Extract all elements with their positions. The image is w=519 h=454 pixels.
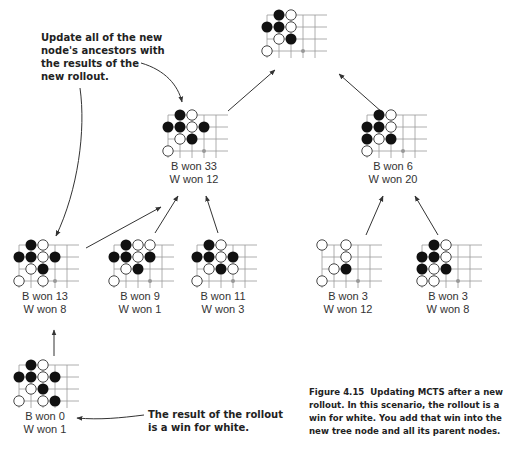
black-stone-icon	[49, 252, 60, 263]
white-stone-icon	[132, 252, 142, 262]
white-stone-icon	[191, 276, 201, 286]
move-marker-icon	[231, 279, 235, 283]
black-stone-icon	[49, 372, 60, 383]
black-stone-icon	[227, 252, 238, 263]
white-stone-icon	[186, 110, 196, 120]
black-stone-icon	[186, 134, 197, 145]
white-stone-icon	[328, 264, 338, 274]
black-stone-icon	[49, 396, 60, 407]
callout-ancestors: Update all of the new node's ancestors w…	[41, 31, 165, 83]
callout-ancestors-line: new rollout.	[41, 70, 165, 83]
white-stone-icon	[440, 240, 450, 250]
edge-leaf5-to-right-child	[415, 196, 438, 235]
white-stone-icon	[273, 34, 283, 44]
black-stone-icon	[37, 264, 48, 275]
black-stone-icon	[261, 22, 272, 33]
go-board	[360, 108, 427, 158]
callout-rollout-line: The result of the rollout	[148, 408, 283, 421]
white-stone-icon	[340, 240, 350, 250]
black-stone-icon	[25, 252, 36, 263]
white-wins: W won 20	[348, 173, 438, 186]
black-stone-icon	[373, 110, 384, 121]
white-stone-icon	[174, 134, 184, 144]
white-stone-icon	[37, 240, 47, 250]
edge-leaf4-to-right-child	[366, 196, 383, 235]
move-marker-icon	[401, 149, 405, 153]
node-stats: B won 0W won 1	[0, 410, 90, 436]
go-board	[12, 358, 79, 408]
black-stone-icon	[25, 372, 36, 383]
move-marker-icon	[202, 149, 206, 153]
white-stone-icon	[203, 264, 213, 274]
black-stone-icon	[273, 10, 284, 21]
go-board	[190, 238, 257, 288]
tree-node-leaf-4: B won 3W won 12	[303, 238, 393, 316]
go-board	[260, 8, 327, 58]
black-stone-icon	[13, 252, 24, 263]
edge-leaf2-to-left-child	[155, 196, 178, 233]
callout-ancestors-line: node's ancestors with	[41, 44, 165, 57]
tree-node-right-child: B won 6W won 20	[348, 108, 438, 186]
go-board	[161, 108, 228, 158]
black-stone-icon	[340, 264, 351, 275]
white-stone-icon	[37, 396, 47, 406]
black-stone-icon	[215, 264, 226, 275]
go-board	[415, 238, 482, 288]
black-stone-icon	[385, 134, 396, 145]
white-stone-icon	[373, 134, 383, 144]
tree-node-leaf-3: B won 11W won 3	[178, 238, 268, 316]
edge-leaf3-to-left-child	[206, 196, 218, 233]
move-marker-icon	[53, 279, 57, 283]
black-stone-icon	[428, 240, 439, 251]
black-stone-icon	[361, 122, 372, 133]
node-stats: B won 33W won 12	[149, 160, 239, 186]
move-marker-icon	[301, 49, 305, 53]
black-stone-icon	[25, 240, 36, 251]
black-wins: B won 3	[403, 290, 493, 303]
tree-node-left-child: B won 33W won 12	[149, 108, 239, 186]
go-board	[315, 238, 382, 288]
white-stone-icon	[385, 110, 395, 120]
black-wins: B won 13	[0, 290, 90, 303]
figure-caption: Figure 4.15Updating MCTS after a new rol…	[309, 386, 519, 438]
callout-arrow-to-leaf1	[56, 88, 82, 236]
white-stone-icon	[132, 240, 142, 250]
black-stone-icon	[416, 264, 427, 275]
node-stats: B won 11W won 3	[178, 290, 268, 316]
white-wins: W won 8	[403, 303, 493, 316]
white-wins: W won 3	[178, 303, 268, 316]
black-stone-icon	[428, 252, 439, 263]
edge-left-child-to-root	[228, 70, 275, 111]
white-stone-icon	[37, 360, 47, 370]
black-stone-icon	[203, 240, 214, 251]
white-stone-icon	[285, 22, 295, 32]
node-stats: B won 6W won 20	[348, 160, 438, 186]
white-stone-icon	[13, 396, 23, 406]
go-board	[107, 238, 174, 288]
white-stone-icon	[215, 252, 225, 262]
tree-node-leaf-2: B won 9W won 1	[95, 238, 185, 316]
black-wins: B won 9	[95, 290, 185, 303]
white-stone-icon	[13, 276, 23, 286]
black-wins: B won 11	[178, 290, 268, 303]
white-stone-icon	[385, 122, 395, 132]
white-stone-icon	[144, 240, 154, 250]
white-stone-icon	[361, 146, 371, 156]
white-stone-icon	[37, 276, 47, 286]
black-stone-icon	[132, 264, 143, 275]
callout-ancestors-line: Update all of the new	[41, 31, 165, 44]
white-stone-icon	[316, 240, 326, 250]
callout-rollout-line: is a win for white.	[148, 421, 283, 434]
black-stone-icon	[174, 122, 185, 133]
white-stone-icon	[340, 252, 350, 262]
black-stone-icon	[198, 122, 209, 133]
black-wins: B won 33	[149, 160, 239, 173]
black-stone-icon	[162, 122, 173, 133]
white-wins: W won 1	[95, 303, 185, 316]
black-stone-icon	[174, 110, 185, 121]
black-stone-icon	[273, 22, 284, 33]
black-wins: B won 0	[0, 410, 90, 423]
black-wins: B won 6	[348, 160, 438, 173]
black-stone-icon	[416, 252, 427, 263]
white-wins: W won 12	[303, 303, 393, 316]
